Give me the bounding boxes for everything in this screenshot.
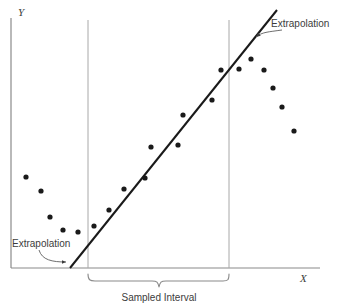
x-axis-label: X	[299, 272, 308, 284]
extrapolation-low-label: Extrapolation	[12, 238, 70, 249]
sampled-interval-brace	[88, 274, 229, 287]
data-point	[291, 128, 296, 133]
data-point	[148, 144, 153, 149]
data-point	[209, 97, 214, 102]
sampled-interval-label: Sampled Interval	[121, 292, 196, 303]
scatter-plot-extrapolation-figure: Extrapolation Extrapolation Sampled Inte…	[0, 0, 349, 307]
regression-line	[70, 10, 277, 268]
data-point	[175, 142, 180, 147]
data-point	[60, 227, 65, 232]
data-point	[261, 67, 266, 72]
data-point	[121, 186, 126, 191]
chart-svg: Extrapolation Extrapolation Sampled Inte…	[0, 0, 349, 307]
data-point	[218, 67, 223, 72]
data-point	[75, 229, 80, 234]
data-point	[47, 214, 52, 219]
y-axis-label: Y	[18, 6, 26, 18]
data-point	[270, 85, 275, 90]
data-point	[142, 175, 147, 180]
data-point	[279, 104, 284, 109]
data-point	[38, 188, 43, 193]
data-point	[248, 56, 253, 61]
data-point	[180, 112, 185, 117]
extrapolation-high-label: Extrapolation	[271, 18, 329, 29]
data-points-group	[23, 56, 296, 234]
data-point	[23, 174, 28, 179]
data-point	[91, 223, 96, 228]
extrapolation-low-arrow	[39, 250, 66, 262]
data-point	[236, 66, 241, 71]
data-point	[106, 207, 111, 212]
